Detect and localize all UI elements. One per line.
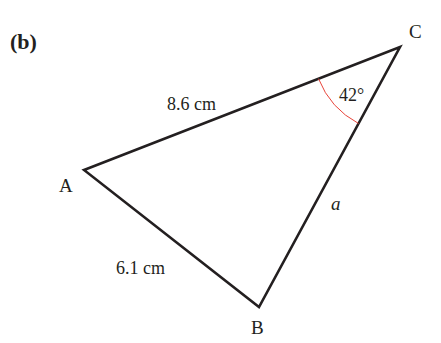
- angle-c-label: 42°: [339, 85, 364, 105]
- triangle-diagram: (b) A B C 8.6 cm 6.1 cm a 42°: [0, 0, 441, 343]
- side-bc-label: a: [331, 193, 341, 214]
- vertex-b-label: B: [251, 317, 264, 338]
- side-ab-label: 6.1 cm: [116, 258, 165, 278]
- vertex-c-label: C: [409, 21, 422, 42]
- vertex-a-label: A: [59, 175, 73, 196]
- part-label: (b): [10, 29, 37, 54]
- side-ac-label: 8.6 cm: [167, 94, 216, 114]
